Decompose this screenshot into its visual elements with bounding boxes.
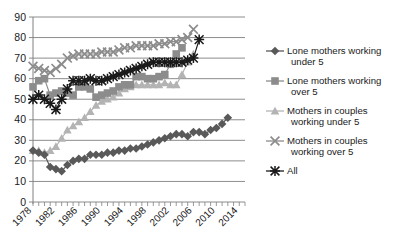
legend-label: Mothers in couples <box>287 105 368 116</box>
x-axis: 1978198219861990199419982002200620102014 <box>10 202 245 228</box>
legend-item[interactable]: All <box>266 165 298 176</box>
legend-label-cont: working over 5 <box>290 146 353 157</box>
asterisk-marker <box>57 94 67 104</box>
y-gridlines: 0102030405060708090 <box>14 11 245 208</box>
x-tick-label: 1986 <box>56 204 80 228</box>
y-tick-label: 30 <box>14 134 26 146</box>
x-tick-label: 1998 <box>124 204 148 228</box>
y-tick-label: 20 <box>14 154 26 166</box>
chart-container: 0102030405060708090197819821986199019941… <box>0 0 413 249</box>
marker-asterisk <box>188 53 198 63</box>
legend-label-cont: over 5 <box>291 86 318 97</box>
marker-asterisk <box>57 94 67 104</box>
marker-square <box>161 71 169 79</box>
y-tick-label: 80 <box>14 31 26 43</box>
triangle-marker <box>178 70 187 78</box>
cross-marker <box>189 25 198 34</box>
x-tick-label: 2014 <box>216 204 240 228</box>
y-tick-label: 40 <box>14 113 26 125</box>
y-tick-label: 50 <box>14 93 26 105</box>
legend-label-cont: working under 5 <box>290 116 359 127</box>
series-1 <box>29 113 232 175</box>
y-tick-label: 70 <box>14 52 26 64</box>
x-tick-label: 1978 <box>10 204 34 228</box>
marker-square <box>127 81 135 89</box>
legend-label: All <box>287 165 298 176</box>
x-tick-label: 2002 <box>147 204 171 228</box>
square-marker <box>41 75 49 83</box>
marker-asterisk <box>51 105 61 115</box>
y-tick-label: 60 <box>14 72 26 84</box>
x-tick-label: 1994 <box>102 204 126 228</box>
marker-square <box>271 77 279 85</box>
marker-asterisk <box>270 166 280 176</box>
asterisk-marker <box>62 84 72 94</box>
asterisk-marker <box>270 166 280 176</box>
x-tick-label: 2010 <box>193 204 217 228</box>
x-tick-label: 2006 <box>170 204 194 228</box>
triangle-marker <box>52 142 61 150</box>
marker-triangle <box>52 142 61 150</box>
legend-label: Lone mothers working <box>287 45 381 56</box>
marker-asterisk <box>62 84 72 94</box>
x-tick-label: 1990 <box>79 204 103 228</box>
legend-label: Mothers in couples <box>287 135 368 146</box>
marker-diamond <box>271 47 280 56</box>
y-tick-label: 90 <box>14 11 26 23</box>
marker-asterisk <box>194 35 204 45</box>
line-chart: 0102030405060708090197819821986199019941… <box>0 0 413 249</box>
legend-item[interactable]: Mothers in couplesworking over 5 <box>266 135 368 157</box>
legend-item[interactable]: Lone mothers workingunder 5 <box>266 45 381 67</box>
square-marker <box>127 81 135 89</box>
square-marker <box>271 77 279 85</box>
asterisk-marker <box>188 53 198 63</box>
marker-square <box>178 44 186 52</box>
marker-triangle <box>57 134 66 142</box>
asterisk-marker <box>51 105 61 115</box>
legend-label-cont: under 5 <box>291 56 324 67</box>
triangle-marker <box>57 134 66 142</box>
marker-square <box>41 75 49 83</box>
square-marker <box>178 44 186 52</box>
legend: Lone mothers workingunder 5Lone mothers … <box>266 45 381 176</box>
y-tick-label: 10 <box>14 175 26 187</box>
asterisk-marker <box>194 35 204 45</box>
square-marker <box>161 71 169 79</box>
cross-marker <box>52 64 61 73</box>
x-tick-label: 1982 <box>33 204 57 228</box>
legend-label: Lone mothers working <box>287 75 381 86</box>
diamond-marker <box>271 47 280 56</box>
legend-item[interactable]: Mothers in couplesworking under 5 <box>266 105 368 127</box>
marker-square <box>86 85 94 93</box>
marker-triangle <box>178 70 187 78</box>
legend-item[interactable]: Lone mothers workingover 5 <box>266 75 381 97</box>
square-marker <box>86 85 94 93</box>
marker-cross <box>52 64 61 73</box>
marker-cross <box>189 25 198 34</box>
